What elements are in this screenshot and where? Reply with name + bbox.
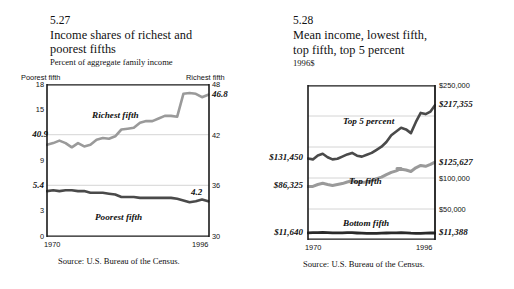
datalabel-top5-start: $131,450 [253, 152, 303, 162]
figure-panel-528: 5.28 Mean income, lowest fifth, top fift… [257, 0, 514, 289]
right-tick-50000: $50,000 [439, 205, 466, 214]
figure-title-528-line1: Mean income, lowest fifth, [293, 28, 427, 42]
right-tick-48: 48 [212, 80, 220, 89]
right-tick-36: 36 [212, 181, 220, 190]
left-tick-18: 18 [18, 80, 44, 89]
source-note-528: Source: U.S. Bureau of the Census. [303, 259, 425, 269]
figure-title-527-line1: Income shares of richest and [50, 28, 192, 42]
datalabel-topfifth-end: $125,627 [439, 157, 473, 167]
datalabel-richest-end: 46.8 [212, 89, 228, 99]
figure-panel-527: 5.27 Income shares of richest and poores… [0, 0, 257, 289]
plot-background [307, 85, 436, 240]
left-tick-3: 3 [18, 206, 44, 215]
right-tick-42: 42 [212, 131, 220, 140]
xaxis-start-527: 1970 [44, 240, 60, 249]
datalabel-bottomfifth-end: $11,388 [439, 227, 468, 237]
xaxis-end-527: 1996 [192, 240, 208, 249]
figure-number-527: 5.27 [50, 14, 70, 27]
xaxis-start-528: 1970 [305, 243, 321, 252]
datalabel-poorest-start: 5.4 [20, 180, 44, 190]
series-label-poorest-fifth: Poorest fifth [95, 212, 142, 222]
series-bottom-fifth [308, 233, 435, 234]
right-tick-30: 30 [212, 232, 220, 241]
right-tick-100000: $100,000 [439, 174, 470, 183]
series-label-richest-fifth: Richest fifth [92, 110, 139, 120]
plot-area-528 [307, 85, 436, 240]
datalabel-top5-end: $217,355 [439, 99, 473, 109]
series-label-top-fifth: Top fifth [349, 176, 382, 186]
figure-subtitle-527: Percent of aggregate family income [50, 57, 173, 67]
datalabel-topfifth-start: $86,325 [253, 180, 303, 190]
datalabel-poorest-end: 4.2 [191, 187, 202, 197]
xaxis-end-528: 1996 [416, 243, 432, 252]
source-note-527: Source: U.S. Bureau of the Census. [58, 256, 180, 266]
datalabel-richest-start: 40.9 [24, 129, 48, 139]
left-tick-9: 9 [18, 156, 44, 165]
figure-title-527-line2: poorest fifths [50, 42, 116, 56]
right-tick-250000: $250,000 [439, 81, 470, 90]
figure-number-528: 5.28 [293, 14, 313, 27]
figure-title-528-line2: top fifth, top 5 percent [293, 43, 405, 57]
series-label-bottom-fifth: Bottom fifth [343, 218, 389, 228]
datalabel-bottomfifth-start: $11,640 [253, 227, 303, 237]
left-tick-15: 15 [18, 105, 44, 114]
figure-subtitle-528: 1996$ [293, 58, 314, 68]
figure-page: 5.27 Income shares of richest and poores… [0, 0, 514, 289]
chart-svg-528 [307, 85, 436, 240]
left-tick-0: 0 [18, 232, 44, 241]
series-label-top-5-percent: Top 5 percent [343, 116, 394, 126]
